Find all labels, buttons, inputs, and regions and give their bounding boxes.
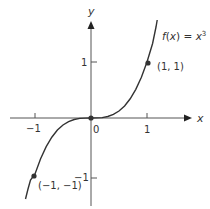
x-axis-label: x	[196, 112, 204, 125]
y-axis-label: y	[87, 5, 95, 18]
function-label: f(x) = x3	[162, 30, 206, 42]
y-tick-label-1: 1	[81, 57, 87, 68]
x-tick-label-neg1: −1	[26, 123, 41, 134]
point-1-1	[145, 60, 150, 65]
function-label-exponent: 3	[202, 30, 206, 38]
x-axis-arrow-icon	[184, 115, 192, 122]
cubic-function-graph: x y −1 0 1 1 −1 (1, 1) (−1, −1) f(x) = x…	[0, 0, 210, 209]
point-neg1-neg1	[31, 173, 36, 178]
point-label-1-1: (1, 1)	[157, 61, 184, 72]
x-tick-label-0: 0	[93, 124, 99, 135]
point-origin	[88, 115, 93, 120]
y-axis-arrow-icon	[88, 21, 95, 29]
point-label-neg1-neg1: (−1, −1)	[38, 180, 82, 191]
x-tick-label-1: 1	[144, 124, 150, 135]
function-label-eq: =	[180, 30, 195, 42]
